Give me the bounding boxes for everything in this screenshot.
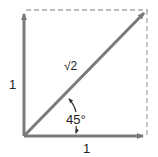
vertical-side-label: 1 — [9, 77, 16, 92]
angle-arrow-upper — [69, 99, 76, 112]
horizontal-side-label: 1 — [83, 141, 90, 156]
vector-diagram: 1 1 √2 45° — [0, 0, 158, 157]
hypotenuse-label: √2 — [64, 59, 78, 73]
angle-label: 45° — [66, 112, 86, 127]
angle-arrow-lower — [76, 126, 77, 133]
